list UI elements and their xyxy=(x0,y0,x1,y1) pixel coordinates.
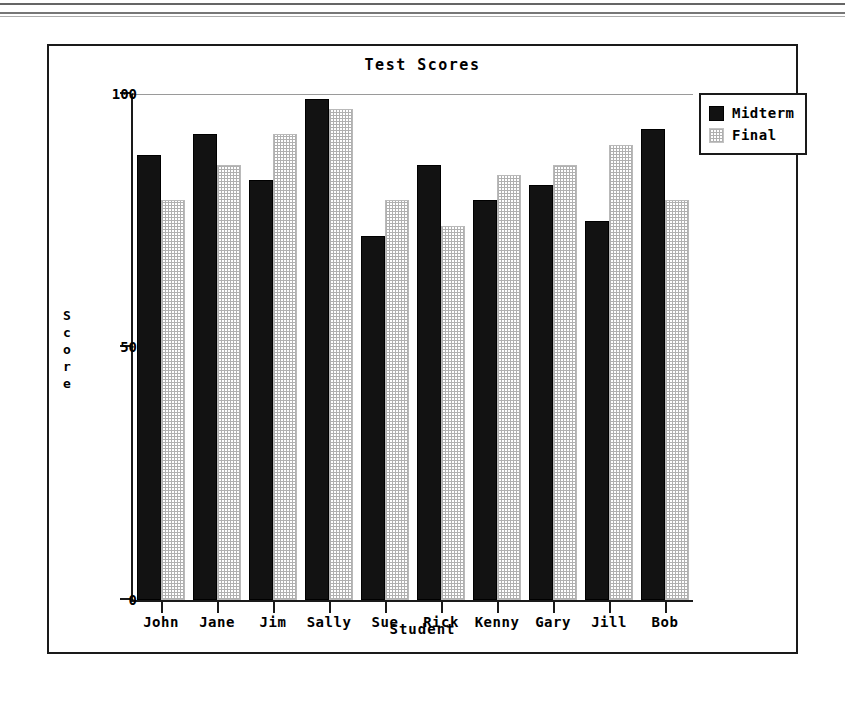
x-tick-cell xyxy=(473,600,521,613)
x-tick-cell xyxy=(193,600,241,613)
bar-midterm-bob xyxy=(641,129,665,600)
y-axis-title-letter: e xyxy=(58,375,76,392)
y-tick-label: 0 xyxy=(103,593,137,607)
y-axis-title-letter: S xyxy=(58,307,76,324)
chart-frame: Test Scores Score 050100 JohnJaneJimSall… xyxy=(47,44,798,654)
x-tick-cell xyxy=(641,600,689,613)
y-axis-title: Score xyxy=(58,307,76,392)
x-tick-cell xyxy=(249,600,297,613)
bar-group xyxy=(249,94,297,600)
bar-midterm-gary xyxy=(529,185,553,600)
plot-area: 050100 JohnJaneJimSallySueRickKennyGaryJ… xyxy=(131,94,693,602)
bar-final-jill xyxy=(609,145,633,600)
bar-group xyxy=(473,94,521,600)
legend-label: Final xyxy=(732,127,777,143)
bar-final-jim xyxy=(273,134,297,600)
bar-midterm-john xyxy=(137,155,161,600)
x-tick-mark xyxy=(329,600,331,613)
bar-final-sue xyxy=(385,200,409,600)
y-tick-label: 50 xyxy=(103,340,137,354)
x-tick-mark xyxy=(609,600,611,613)
bar-group xyxy=(641,94,689,600)
bar-group xyxy=(529,94,577,600)
bar-final-jane xyxy=(217,165,241,600)
bar-midterm-sally xyxy=(305,99,329,600)
x-tick-mark xyxy=(497,600,499,613)
y-axis-title-letter: c xyxy=(58,324,76,341)
bar-midterm-jim xyxy=(249,180,273,600)
bar-series-container xyxy=(133,94,693,600)
legend-entry-final: Final xyxy=(709,124,795,146)
x-tick-cell xyxy=(137,600,185,613)
bar-midterm-rick xyxy=(417,165,441,600)
y-axis-title-letter: o xyxy=(58,341,76,358)
bar-group xyxy=(193,94,241,600)
legend-label: Midterm xyxy=(732,105,795,121)
x-tick-mark xyxy=(385,600,387,613)
x-axis-ticks xyxy=(133,600,693,613)
scan-artifact-line-middle xyxy=(0,12,845,14)
bar-final-kenny xyxy=(497,175,521,600)
bar-final-sally xyxy=(329,109,353,600)
bar-midterm-jill xyxy=(585,221,609,601)
x-tick-mark xyxy=(441,600,443,613)
scan-artifact-line-top xyxy=(0,3,845,5)
x-tick-mark xyxy=(665,600,667,613)
x-tick-cell xyxy=(585,600,633,613)
legend-entry-midterm: Midterm xyxy=(709,102,795,124)
bar-group xyxy=(585,94,633,600)
x-tick-mark xyxy=(161,600,163,613)
bar-midterm-kenny xyxy=(473,200,497,600)
x-tick-cell xyxy=(305,600,353,613)
bar-group xyxy=(417,94,465,600)
bar-final-rick xyxy=(441,226,465,600)
x-tick-mark xyxy=(553,600,555,613)
x-tick-mark xyxy=(273,600,275,613)
y-tick-label: 100 xyxy=(103,87,137,101)
x-tick-cell xyxy=(529,600,577,613)
scan-artifact-line-bottom xyxy=(0,16,845,17)
bar-final-john xyxy=(161,200,185,600)
solid-black-square-icon xyxy=(709,106,724,121)
chart-legend: MidtermFinal xyxy=(699,93,807,155)
x-tick-cell xyxy=(417,600,465,613)
y-axis-title-letter: r xyxy=(58,358,76,375)
bar-group xyxy=(305,94,353,600)
x-axis-title: Student xyxy=(49,621,796,637)
bar-midterm-jane xyxy=(193,134,217,600)
bar-midterm-sue xyxy=(361,236,385,600)
stippled-square-icon xyxy=(709,128,724,143)
bar-final-bob xyxy=(665,200,689,600)
bar-group xyxy=(137,94,185,600)
x-tick-cell xyxy=(361,600,409,613)
chart-title: Test Scores xyxy=(49,56,796,74)
x-tick-mark xyxy=(217,600,219,613)
bar-group xyxy=(361,94,409,600)
bar-final-gary xyxy=(553,165,577,600)
